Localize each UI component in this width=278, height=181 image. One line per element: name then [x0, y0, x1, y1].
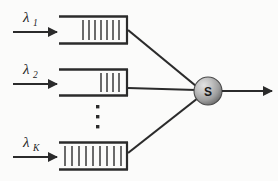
queue-2 — [59, 69, 128, 96]
link-queue-K-to-server — [128, 98, 198, 153]
ellipsis-dot-1 — [96, 105, 99, 108]
lambda-K-label: λ — [22, 134, 30, 150]
lambda-2-subscript: 2 — [33, 70, 38, 80]
lambda-1-subscript: 1 — [33, 18, 38, 28]
link-queue-1-to-server — [128, 30, 196, 86]
server-label: S — [204, 85, 212, 99]
lambda-K-subscript: K — [32, 143, 40, 153]
ellipsis-dot-2 — [96, 115, 99, 118]
lambda-2-label: λ — [22, 61, 30, 77]
queue-1-jobs — [83, 20, 119, 40]
server-node: S — [194, 77, 222, 105]
link-queue-2-to-server — [128, 88, 196, 90]
queueing-diagram-root: λ 1 λ 2 — [0, 0, 278, 181]
arrival-stream-1: λ 1 — [13, 9, 57, 32]
ellipsis-dot-3 — [96, 125, 99, 128]
queue-K-jobs — [65, 146, 121, 166]
queue-2-jobs — [101, 73, 119, 92]
arrival-stream-2: λ 2 — [13, 61, 57, 84]
lambda-1-label: λ — [22, 9, 30, 25]
vertical-ellipsis — [96, 105, 99, 128]
queueing-network-figure: λ 1 λ 2 — [0, 0, 278, 181]
queue-K — [59, 142, 128, 170]
queue-1 — [59, 16, 128, 44]
arrival-stream-K: λ K — [13, 134, 57, 157]
